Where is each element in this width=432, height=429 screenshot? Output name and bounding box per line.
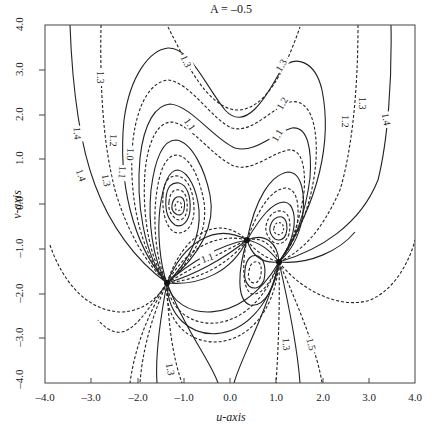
xtick-label: –3.0 xyxy=(76,391,106,403)
ytick-label: 4.0 xyxy=(13,11,25,37)
svg-text:1.0: 1.0 xyxy=(125,148,137,161)
svg-text:1.1: 1.1 xyxy=(117,166,129,179)
xtick-label: 3.0 xyxy=(354,391,384,403)
x-axis-label: u-axis xyxy=(0,410,432,425)
x-axis-label-text: u-axis xyxy=(216,410,245,424)
ytick-label: 2.0 xyxy=(13,101,25,127)
xtick-label: 2.0 xyxy=(308,391,338,403)
svg-text:1.2: 1.2 xyxy=(340,115,351,128)
y-axis-label-text: v-axis xyxy=(10,190,24,219)
svg-text:1.3: 1.3 xyxy=(164,362,177,376)
singular-point-2 xyxy=(244,237,250,243)
svg-text:1.3: 1.3 xyxy=(95,71,106,84)
xtick-label: 4.0 xyxy=(400,391,430,403)
ytick-label: 1.0 xyxy=(13,145,25,171)
ytick-label: 3.0 xyxy=(13,56,25,82)
xtick-label: 1.0 xyxy=(261,391,291,403)
svg-text:1.4: 1.4 xyxy=(71,127,83,140)
contour-1.4-left xyxy=(70,25,167,283)
contour-1.5 xyxy=(279,262,322,383)
ytick-label: –2.0 xyxy=(13,280,25,306)
svg-text:1.2: 1.2 xyxy=(108,134,119,147)
singular-point-3 xyxy=(276,259,282,265)
xtick-label: –4.0 xyxy=(30,391,60,403)
ytick-label: –1.0 xyxy=(13,235,25,261)
y-axis-label: v-axis xyxy=(10,180,25,230)
singular-point-1 xyxy=(164,280,170,286)
xtick-label: –2.0 xyxy=(123,391,153,403)
y-ticks xyxy=(39,70,45,338)
svg-text:1.3: 1.3 xyxy=(280,338,292,351)
ytick-label: –4.0 xyxy=(13,366,25,392)
xtick-label: –1.0 xyxy=(169,391,199,403)
x-ticks xyxy=(91,378,369,383)
svg-text:1.3: 1.3 xyxy=(100,173,113,187)
svg-text:1.3: 1.3 xyxy=(357,97,368,110)
contour-1.45-left xyxy=(50,245,167,312)
xtick-label: 0.0 xyxy=(215,391,245,403)
ytick-label: –3.0 xyxy=(13,324,25,350)
svg-text:1.4: 1.4 xyxy=(380,112,393,126)
contour-plot: 1.4 1.4 1.3 1.3 1.2 1.1 1.0 1.3 1.1 1.1 … xyxy=(0,0,432,429)
contour-1.2 xyxy=(123,48,326,283)
